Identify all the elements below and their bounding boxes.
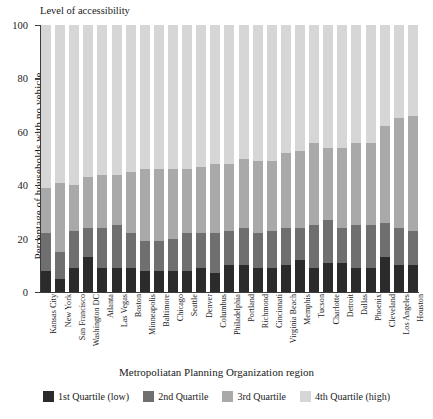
bar-minneapolis[interactable] xyxy=(140,25,150,292)
bar-segment xyxy=(253,233,263,268)
x-tick: Atlanta xyxy=(97,294,107,362)
bar-denver[interactable] xyxy=(196,25,206,292)
bar-los-angeles[interactable] xyxy=(394,25,404,292)
y-tick-label: 0 xyxy=(23,287,28,298)
y-tick: 20 xyxy=(35,239,40,240)
bar-segment xyxy=(55,252,65,279)
bar-segment xyxy=(210,233,220,273)
bar-seattle[interactable] xyxy=(182,25,192,292)
bar-atlanta[interactable] xyxy=(97,25,107,292)
bar-cleveland[interactable] xyxy=(380,25,390,292)
bar-segment xyxy=(126,233,136,268)
bar-segment xyxy=(168,239,178,271)
bar-segment xyxy=(126,25,136,172)
x-tick: Cleveland xyxy=(380,294,390,362)
x-tick: Tucson xyxy=(309,294,319,362)
bar-segment xyxy=(69,185,79,230)
bar-richmond[interactable] xyxy=(253,25,263,292)
bar-segment xyxy=(126,268,136,292)
bar-kansas-city[interactable] xyxy=(41,25,51,292)
bar-charlotte[interactable] xyxy=(323,25,333,292)
bar-segment xyxy=(83,25,93,177)
bar-washington-dc[interactable] xyxy=(83,25,93,292)
legend-item[interactable]: 2nd Quartile xyxy=(143,391,208,402)
bar-portland[interactable] xyxy=(239,25,249,292)
legend-item[interactable]: 3rd Quartile xyxy=(222,391,286,402)
bar-philadelphia[interactable] xyxy=(224,25,234,292)
x-tick: Richmond xyxy=(253,294,263,362)
x-tick: Philadelphia xyxy=(224,294,234,362)
y-tick: 40 xyxy=(35,185,40,186)
bar-segment xyxy=(295,25,305,150)
bar-segment xyxy=(337,148,347,228)
x-tick: Minneapolis xyxy=(140,294,150,362)
bar-segment xyxy=(394,265,404,292)
legend-swatch-icon xyxy=(300,391,311,402)
legend-label: 1st Quartile (low) xyxy=(58,391,129,402)
y-tick-label: 40 xyxy=(18,180,29,191)
x-tick: Phoenix xyxy=(366,294,376,362)
bar-boston[interactable] xyxy=(126,25,136,292)
y-tick-label: 60 xyxy=(18,126,29,137)
x-tick: Charlotte xyxy=(323,294,333,362)
bar-houston[interactable] xyxy=(408,25,418,292)
legend-item[interactable]: 4th Quartile (high) xyxy=(300,391,390,402)
x-tick: Las Vegas xyxy=(112,294,122,362)
bar-san-francisco[interactable] xyxy=(69,25,79,292)
bar-segment xyxy=(55,183,65,252)
bar-segment xyxy=(394,118,404,227)
legend-swatch-icon xyxy=(43,391,54,402)
bar-segment xyxy=(168,169,178,238)
bar-segment xyxy=(210,164,220,233)
x-tick: Boston xyxy=(126,294,136,362)
legend-swatch-icon xyxy=(143,391,154,402)
bar-baltimore[interactable] xyxy=(154,25,164,292)
bar-segment xyxy=(41,25,51,188)
bar-cincinnati[interactable] xyxy=(267,25,277,292)
bar-segment xyxy=(224,265,234,292)
bar-segment xyxy=(281,228,291,265)
bar-segment xyxy=(366,143,376,226)
bar-segment xyxy=(366,268,376,292)
bar-segment xyxy=(281,153,291,228)
x-tick: Columbus xyxy=(210,294,220,362)
x-tick-label: Houston xyxy=(416,294,426,322)
bar-segment xyxy=(323,148,333,220)
bar-detroit[interactable] xyxy=(337,25,347,292)
bar-new-york[interactable] xyxy=(55,25,65,292)
bar-dallas[interactable] xyxy=(351,25,361,292)
bar-segment xyxy=(224,25,234,164)
bar-segment xyxy=(41,271,51,292)
bar-segment xyxy=(154,271,164,292)
x-tick: Baltimore xyxy=(154,294,164,362)
bar-segment xyxy=(182,169,192,233)
bar-segment xyxy=(323,263,333,292)
bar-memphis[interactable] xyxy=(295,25,305,292)
bar-segment xyxy=(196,233,206,268)
chart-legend: 1st Quartile (low)2nd Quartile3rd Quarti… xyxy=(0,391,433,402)
bar-las-vegas[interactable] xyxy=(112,25,122,292)
bar-segment xyxy=(408,25,418,116)
legend-item[interactable]: 1st Quartile (low) xyxy=(43,391,129,402)
bar-segment xyxy=(408,231,418,266)
legend-label: 3rd Quartile xyxy=(237,391,286,402)
bar-segment xyxy=(309,225,319,268)
x-tick: San Francisco xyxy=(69,294,79,362)
bar-segment xyxy=(253,25,263,161)
bar-segment xyxy=(337,228,347,263)
bar-segment xyxy=(182,25,192,169)
bar-segment xyxy=(69,231,79,268)
bar-segment xyxy=(112,175,122,226)
bar-virginia-beach[interactable] xyxy=(281,25,291,292)
x-axis-tick-labels: Kansas CityNew YorkSan FranciscoWashingt… xyxy=(41,294,418,362)
bar-tucson[interactable] xyxy=(309,25,319,292)
bar-segment xyxy=(210,25,220,164)
bar-segment xyxy=(267,161,277,230)
bar-segment xyxy=(224,164,234,231)
bar-columbus[interactable] xyxy=(210,25,220,292)
bar-phoenix[interactable] xyxy=(366,25,376,292)
bar-chicago[interactable] xyxy=(168,25,178,292)
bars-container xyxy=(41,25,418,292)
bar-segment xyxy=(140,241,150,270)
bar-segment xyxy=(309,268,319,292)
